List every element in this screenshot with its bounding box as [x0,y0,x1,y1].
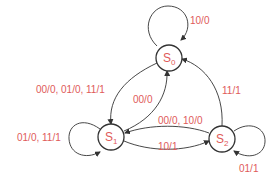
label-s0-s0: 10/0 [190,15,210,26]
state-s0: S0 [156,45,182,71]
label-s2-s2: 01/1 [239,163,259,174]
label-s2-s0: 11/1 [222,85,241,96]
edge-s2-s1 [125,126,209,133]
edge-s0-s0 [148,6,188,46]
label-s1-s1: 01/0, 11/1 [17,132,61,143]
state-s1: S1 [98,124,124,150]
label-s1-s0: 00/0 [133,94,153,105]
label-s1-s2: 10/1 [158,141,178,152]
edge-s2-s2 [234,126,265,156]
state-s2: S2 [209,126,235,152]
edge-s1-s1 [69,123,100,156]
label-s0-s1: 00/0, 01/0, 11/1 [36,84,105,95]
state-diagram: S0 S1 S2 10/0 00/0, 01/0, 11/1 00/0 01/0… [0,0,276,181]
label-s2-s1: 00/0, 10/0 [158,115,203,126]
